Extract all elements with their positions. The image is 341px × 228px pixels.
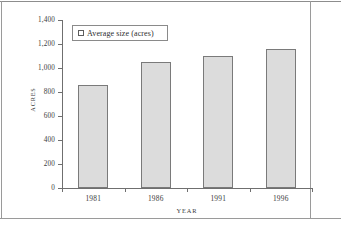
y-tick-mark — [58, 92, 62, 93]
y-tick-label: 200 — [44, 160, 55, 168]
legend-swatch-icon — [78, 30, 84, 36]
x-tick-mark — [312, 188, 313, 192]
y-tick-mark — [58, 20, 62, 21]
plot-area: 02004006008001,0001,2001,400 19811986199… — [0, 0, 341, 228]
x-tick-label: 1996 — [251, 194, 311, 203]
y-tick-label: 1,000 — [38, 64, 55, 72]
y-axis-title: ACRES — [29, 85, 36, 115]
y-tick-label: 600 — [44, 112, 55, 120]
y-tick-mark — [58, 140, 62, 141]
x-tick-label: 1981 — [63, 194, 123, 203]
bar — [266, 49, 296, 188]
y-axis-line — [62, 20, 63, 189]
bar — [141, 62, 171, 188]
y-tick-mark — [58, 164, 62, 165]
y-tick-label: 0 — [51, 184, 55, 192]
y-tick-label: 1,400 — [38, 16, 55, 24]
x-tick-mark — [125, 188, 126, 192]
legend-label: Average size (acres) — [87, 29, 154, 38]
x-tick-label: 1991 — [188, 194, 248, 203]
chart-legend: Average size (acres) — [72, 25, 168, 41]
chart-figure: 02004006008001,0001,2001,400 19811986199… — [0, 0, 341, 228]
bar — [203, 56, 233, 188]
x-tick-label: 1986 — [126, 194, 186, 203]
bar — [78, 85, 108, 188]
y-tick-mark — [58, 116, 62, 117]
y-tick-label: 800 — [44, 88, 55, 96]
y-tick-label: 1,200 — [38, 40, 55, 48]
x-tick-mark — [187, 188, 188, 192]
x-axis-title: YEAR — [62, 207, 312, 214]
x-tick-mark — [250, 188, 251, 192]
y-tick-label: 400 — [44, 136, 55, 144]
y-tick-mark — [58, 68, 62, 69]
x-tick-mark — [62, 188, 63, 192]
y-tick-mark — [58, 44, 62, 45]
